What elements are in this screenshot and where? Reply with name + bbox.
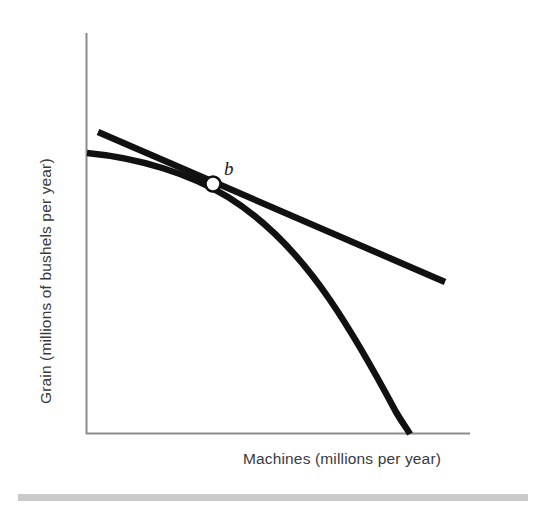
tangency-point-marker	[206, 177, 221, 192]
plot-area	[0, 0, 552, 511]
bottom-divider	[18, 494, 528, 501]
tangent-line	[98, 132, 445, 282]
y-axis-label: Grain (millions of bushels per year)	[38, 158, 54, 404]
ppf-figure: Grain (millions of bushels per year) Mac…	[0, 0, 552, 511]
x-axis-label: Machines (millions per year)	[243, 451, 441, 467]
point-label-b: b	[224, 159, 234, 178]
